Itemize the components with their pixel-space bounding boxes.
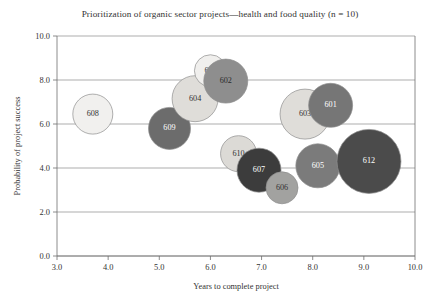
y-tick-label-6.0: 6.0 [40,120,50,129]
x-axis-title: Years to complete project [193,282,279,291]
y-tick-label-8.0: 8.0 [40,76,50,85]
x-tick-label-3.0: 3.0 [52,263,62,272]
x-tick-labels: 3.04.05.06.07.08.09.010.0 [52,256,423,272]
bubble-606[interactable]: 606 [266,172,298,204]
plot-canvas: 0.02.04.06.08.010.0 3.04.05.06.07.08.09.… [0,0,440,302]
bubble-label-607: 607 [253,165,265,174]
bubble-series: 608609604611602610607606603601605612 [73,55,401,204]
bubble-605[interactable]: 605 [296,144,340,188]
x-tick-label-9.0: 9.0 [359,263,369,272]
bubble-label-604: 604 [189,94,201,103]
x-tick-label-10.0: 10.0 [408,263,423,272]
x-tick-label-7.0: 7.0 [256,263,266,272]
x-tick-label-8.0: 8.0 [307,263,317,272]
bubble-label-606: 606 [276,183,288,192]
y-tick-label-0.0: 0.0 [40,252,50,261]
y-tick-label-2.0: 2.0 [40,208,50,217]
y-tick-labels: 0.02.04.06.08.010.0 [35,32,57,261]
y-axis-title: Probability of project success [13,97,22,196]
bubble-label-609: 609 [163,123,175,132]
bubble-608[interactable]: 608 [73,94,113,134]
bubble-612[interactable]: 612 [337,129,401,193]
bubble-602[interactable]: 602 [204,59,248,103]
bubble-label-602: 602 [220,76,232,85]
x-tick-label-4.0: 4.0 [103,263,113,272]
y-tick-label-4.0: 4.0 [40,164,50,173]
x-tick-label-5.0: 5.0 [154,263,164,272]
bubble-label-608: 608 [87,109,99,118]
y-tick-label-10.0: 10.0 [35,32,50,41]
bubble-label-605: 605 [312,161,324,170]
x-tick-label-6.0: 6.0 [205,263,215,272]
bubble-label-601: 601 [324,100,336,109]
bubble-chart-figure: Prioritization of organic sector project… [0,0,440,302]
bubble-601[interactable]: 601 [309,83,353,127]
bubble-label-612: 612 [363,156,375,165]
